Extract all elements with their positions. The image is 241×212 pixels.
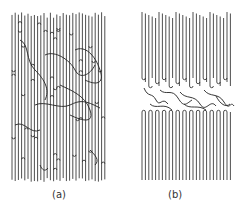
panel-b-diagram [120, 0, 241, 190]
panel-a-label: (a) [52, 189, 66, 200]
panel-a-diagram [0, 0, 120, 190]
panel-b-label: (b) [168, 189, 182, 200]
